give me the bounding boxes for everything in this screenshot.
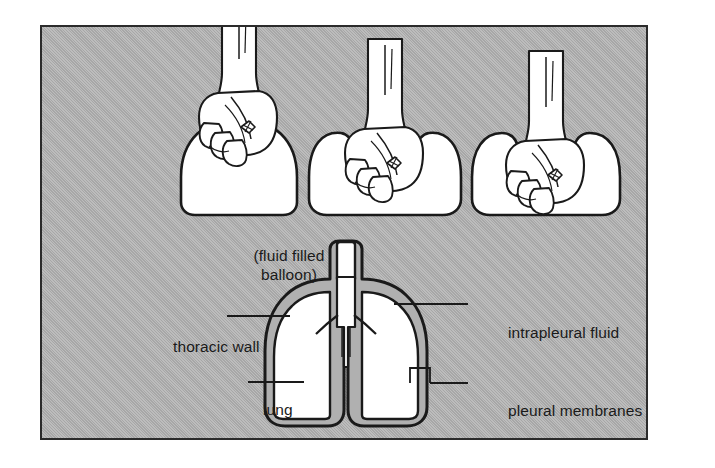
panel-fist-pressing-balloon bbox=[309, 39, 461, 215]
label-pleural-membranes: pleural membranes bbox=[508, 401, 642, 420]
panel-fist-deep-in-balloon bbox=[472, 51, 620, 215]
balloon-caption: (fluid filled balloon) bbox=[214, 246, 364, 284]
illustration-artwork bbox=[42, 27, 648, 440]
figure-root: (fluid filled balloon) thoracic wall lun… bbox=[0, 0, 715, 468]
fist-1 bbox=[199, 27, 277, 166]
label-thoracic-wall: thoracic wall bbox=[173, 337, 260, 356]
panel-fist-above-balloon bbox=[181, 27, 297, 215]
illustration-panel: (fluid filled balloon) thoracic wall lun… bbox=[40, 25, 648, 440]
label-lung: lung bbox=[263, 400, 293, 419]
fist-3 bbox=[506, 51, 584, 214]
label-intrapleural-fluid: intrapleural fluid bbox=[508, 323, 619, 342]
fist-2 bbox=[345, 39, 423, 202]
